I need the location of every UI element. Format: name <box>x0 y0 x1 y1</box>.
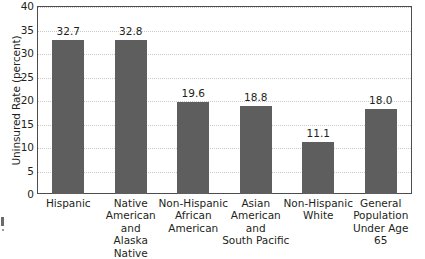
x-axis-label-line: Native <box>96 197 167 209</box>
y-axis-tick-0: 0 <box>0 189 34 200</box>
y-axis-tick-labels: 0510152025303540 <box>0 0 34 252</box>
y-axis-tick-5: 5 <box>0 165 34 176</box>
x-axis-label-line: African <box>158 209 229 221</box>
x-axis-label-line: Under Age 65 <box>346 222 417 247</box>
gridline-35 <box>38 31 411 32</box>
x-axis-category-labels: HispanicNativeAmericanandAlaska NativeNo… <box>37 197 412 252</box>
x-axis-label-line: and <box>96 222 167 234</box>
x-axis-label-3: AsianAmericanandSouth Pacific <box>221 197 292 247</box>
x-axis-label-2: Non-HispanicAfricanAmerican <box>158 197 229 234</box>
y-axis-tick-40: 40 <box>0 1 34 12</box>
gridline-30 <box>38 54 411 55</box>
gridline-25 <box>38 78 411 79</box>
x-axis-label-0: Hispanic <box>33 197 104 209</box>
y-axis-tick-25: 25 <box>0 71 34 82</box>
y-axis-tick-30: 30 <box>0 48 34 59</box>
x-axis-label-5: GeneralPopulationUnder Age 65 <box>346 197 417 247</box>
x-axis-label-line: American <box>221 209 292 221</box>
gridline-15 <box>38 125 411 126</box>
gridline-20 <box>38 101 411 102</box>
plot-area <box>37 6 412 194</box>
y-axis-tick-15: 15 <box>0 118 34 129</box>
x-axis-label-line: White <box>283 209 354 221</box>
x-axis-label-line: Non-Hispanic <box>283 197 354 209</box>
scan-artifact <box>1 217 4 226</box>
x-axis-label-line: American <box>96 209 167 221</box>
x-axis-label-line: General <box>346 197 417 209</box>
x-axis-label-line: South Pacific <box>221 234 292 246</box>
x-axis-label-line: and <box>221 222 292 234</box>
x-axis-label-line: Population <box>346 209 417 221</box>
x-axis-label-1: NativeAmericanandAlaska Native <box>96 197 167 259</box>
x-axis-label-line: Non-Hispanic <box>158 197 229 209</box>
x-axis-label-4: Non-HispanicWhite <box>283 197 354 222</box>
x-axis-label-line: American <box>158 222 229 234</box>
y-axis-tick-20: 20 <box>0 95 34 106</box>
x-axis-label-line: Alaska Native <box>96 234 167 259</box>
x-axis-label-line: Hispanic <box>33 197 104 209</box>
x-axis-label-line: Asian <box>221 197 292 209</box>
y-axis-tick-35: 35 <box>0 24 34 35</box>
gridline-10 <box>38 148 411 149</box>
y-axis-tick-10: 10 <box>0 142 34 153</box>
scan-artifact-dot <box>2 229 4 231</box>
gridline-5 <box>38 172 411 173</box>
gridline-40 <box>38 7 411 8</box>
